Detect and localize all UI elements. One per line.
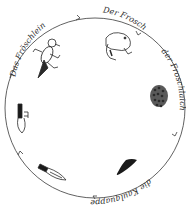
late-tadpole-icon bbox=[18, 104, 29, 133]
tadpole-with-legs-icon bbox=[38, 164, 66, 180]
frog-life-cycle-diagram: Das Fröschlein Der Frosch der Froschlaic… bbox=[0, 0, 186, 206]
cycle-circle bbox=[5, 18, 185, 198]
frog-icon bbox=[106, 33, 132, 60]
arrow-icon bbox=[18, 151, 23, 155]
stage-label-kaulquappe: die Kaulquappe bbox=[90, 178, 153, 206]
tadpole-icon bbox=[117, 159, 137, 175]
froglet-icon bbox=[33, 39, 60, 78]
frogspawn-icon bbox=[150, 85, 168, 107]
diagram-canvas: Das Fröschlein Der Frosch der Froschlaic… bbox=[0, 0, 186, 206]
arrow-icon bbox=[172, 132, 177, 136]
arrow-icon bbox=[136, 31, 141, 35]
cycle-arrows bbox=[10, 15, 177, 199]
